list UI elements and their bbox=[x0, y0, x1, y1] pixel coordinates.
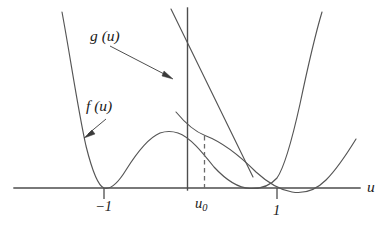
tick-label-minus-one: −1 bbox=[95, 199, 112, 214]
u-zero-subscript: 0 bbox=[202, 202, 207, 213]
figure-double-well-diagram: g (u) f (u) −1 u0 1 u bbox=[0, 0, 391, 233]
tangent-line bbox=[171, 9, 253, 177]
tick-label-u-zero: u0 bbox=[195, 196, 207, 213]
f-curve-label: f (u) bbox=[86, 98, 112, 114]
g-curve-label: g (u) bbox=[90, 28, 120, 44]
tick-label-one: 1 bbox=[273, 203, 280, 218]
g-curve bbox=[176, 112, 356, 193]
g-label-leader-line bbox=[110, 46, 168, 76]
x-axis-label: u bbox=[367, 179, 375, 195]
g-label-arrow-icon bbox=[162, 71, 173, 79]
f-label-arrow-icon bbox=[84, 130, 95, 138]
